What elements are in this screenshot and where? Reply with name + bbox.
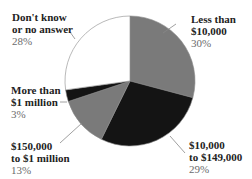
slice-label-line1: More than: [11, 84, 61, 96]
slice-label-10k-to-149k: $10,000 to $149,000 29%: [189, 139, 242, 175]
slice-label-line2: to $1 million: [11, 152, 70, 164]
slice-label-less-than-10k: Less than $10,000 30%: [191, 13, 236, 49]
slice-label-line1: $10,000: [189, 139, 242, 151]
slice-label-150k-to-1m: $150,000 to $1 million 13%: [11, 140, 70, 176]
pie-slice-4: [65, 16, 130, 90]
pie-slices: [65, 16, 195, 146]
slice-label-line2: to $149,000: [189, 151, 242, 163]
slice-label-line2: $10,000: [191, 25, 236, 37]
slice-label-dont-know: Don't know or no answer 28%: [12, 11, 73, 47]
slice-label-more-than-1m: More than $1 million 3%: [11, 84, 61, 120]
slice-label-line2: or no answer: [12, 23, 73, 35]
slice-label-line1: Less than: [191, 13, 236, 25]
slice-label-line1: $150,000: [11, 140, 70, 152]
slice-percent: 13%: [11, 164, 70, 176]
slice-label-line2: $1 million: [11, 96, 61, 108]
leader-line-10k-to-149k: [170, 136, 185, 153]
slice-percent: 28%: [12, 35, 73, 47]
slice-percent: 30%: [191, 37, 236, 49]
slice-percent: 29%: [189, 163, 242, 175]
slice-label-line1: Don't know: [12, 11, 73, 23]
slice-percent: 3%: [11, 108, 61, 120]
